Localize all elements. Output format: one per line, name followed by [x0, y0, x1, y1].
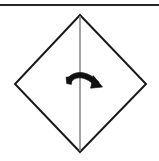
origami-figure: Fold the square in half along the vertic…: [0, 0, 159, 161]
fold-diagram: [0, 0, 159, 161]
